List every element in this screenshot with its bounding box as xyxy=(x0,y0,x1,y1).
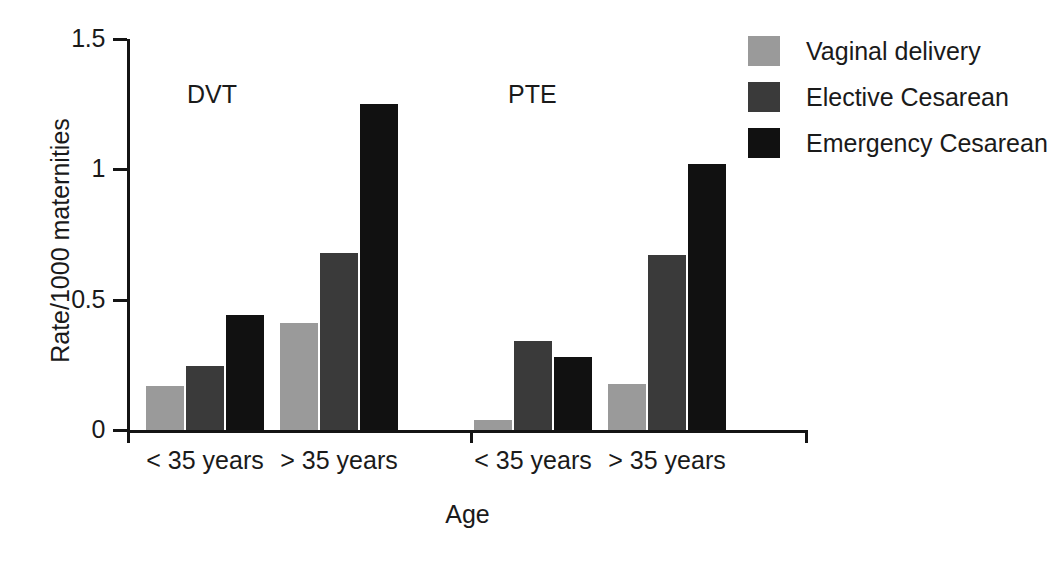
x-axis-group-label: < 35 years xyxy=(130,446,280,474)
bar xyxy=(360,104,398,430)
legend-item-label: Emergency Cesarean xyxy=(806,129,1048,157)
x-axis-group-label: < 35 years xyxy=(458,446,608,474)
panel-label: PTE xyxy=(508,80,557,108)
bar xyxy=(688,164,726,430)
x-axis-tick xyxy=(127,430,130,443)
x-axis-group-label: > 35 years xyxy=(592,446,742,474)
chart-figure: 1.510.50 Rate/1000 maternities DVTPTE < … xyxy=(0,0,1059,565)
legend-swatch-icon xyxy=(748,128,780,158)
x-axis-tick xyxy=(470,430,473,443)
chart-legend: Vaginal deliveryElective CesareanEmergen… xyxy=(748,28,1048,166)
x-axis-title: Age xyxy=(0,500,935,528)
bar xyxy=(648,255,686,430)
legend-item: Emergency Cesarean xyxy=(748,120,1048,166)
legend-item: Vaginal delivery xyxy=(748,28,1048,74)
x-axis-tick xyxy=(805,430,808,443)
bar xyxy=(474,420,512,430)
bar xyxy=(514,341,552,430)
x-axis-group-label: > 35 years xyxy=(264,446,414,474)
legend-item-label: Vaginal delivery xyxy=(806,37,981,65)
legend-item-label: Elective Cesarean xyxy=(806,83,1009,111)
legend-swatch-icon xyxy=(748,82,780,112)
bar xyxy=(226,315,264,430)
panel-label: DVT xyxy=(187,80,237,108)
bar xyxy=(280,323,318,430)
legend-item: Elective Cesarean xyxy=(748,74,1048,120)
bar xyxy=(320,253,358,430)
legend-swatch-icon xyxy=(748,36,780,66)
bar xyxy=(554,357,592,430)
bar xyxy=(608,384,646,430)
bar xyxy=(146,386,184,430)
bar xyxy=(186,366,224,430)
x-axis-line xyxy=(127,430,807,433)
